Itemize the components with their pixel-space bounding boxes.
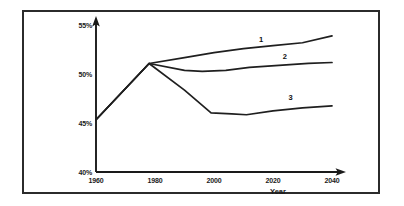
x-axis <box>96 168 346 176</box>
y-tick-label-55: 55% <box>79 22 93 29</box>
y-tick-label-40: 40% <box>79 169 93 176</box>
line-chart-plot: 40% 45% 50% 55% 1960 1980 2000 2020 2040… <box>0 0 404 206</box>
series-label-3: 3 <box>289 93 293 102</box>
series-line-2 <box>96 62 332 119</box>
y-axis <box>92 16 100 172</box>
x-axis-title: Year <box>270 187 286 196</box>
x-tick-label-1980: 1980 <box>148 177 163 184</box>
y-tick-label-50: 50% <box>79 71 93 78</box>
series-line-3 <box>96 63 332 119</box>
data-series-group <box>96 36 332 120</box>
y-tick-label-45: 45% <box>79 120 93 127</box>
x-tick-label-2040: 2040 <box>325 177 340 184</box>
series-label-2: 2 <box>283 52 287 61</box>
series-line-1 <box>96 36 332 120</box>
x-tick-label-2000: 2000 <box>207 177 222 184</box>
x-tick-label-2020: 2020 <box>266 177 281 184</box>
figure-root: 40% 45% 50% 55% 1960 1980 2000 2020 2040… <box>0 0 404 206</box>
x-tick-label-1960: 1960 <box>89 177 104 184</box>
series-label-1: 1 <box>259 35 263 44</box>
x-tick-labels: 1960 1980 2000 2020 2040 <box>89 177 340 184</box>
y-tick-labels: 40% 45% 50% 55% <box>79 22 93 176</box>
